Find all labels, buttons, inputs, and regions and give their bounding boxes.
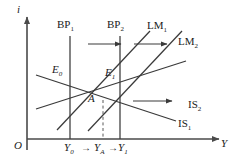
isl-lm-bp-figure: i Y O BP1 BP2 LM1 LM2 IS2 IS1 E0 E1 A Y0… — [0, 0, 235, 163]
bp1-label: BP1 — [57, 19, 74, 33]
bp2-label: BP2 — [107, 19, 124, 33]
x-tick-ya-sub: A — [100, 148, 104, 156]
lm2-curve — [88, 31, 182, 131]
x-tick-y1: Y1 — [118, 142, 128, 156]
lm2-label: LM2 — [178, 36, 198, 50]
tick-arrow-1: → — [81, 143, 91, 153]
x-tick-y1-sub: 1 — [124, 148, 128, 156]
is2-label-base: IS — [188, 98, 198, 110]
x-tick-ya: YA — [94, 142, 104, 156]
is1-label-sub: 1 — [188, 124, 192, 132]
point-e0-label-sub: 0 — [59, 70, 63, 78]
lm1-label-sub: 1 — [164, 26, 168, 34]
x-tick-y0-sub: 0 — [70, 148, 74, 156]
is1-label-base: IS — [178, 117, 188, 129]
point-e0-label: E0 — [52, 64, 62, 78]
y-axis-label: i — [17, 4, 20, 15]
lm1-label: LM1 — [147, 20, 167, 34]
x-tick-y0: Y0 — [64, 142, 74, 156]
is2-label: IS2 — [188, 99, 201, 113]
bp2-label-sub: 2 — [120, 25, 124, 33]
is1-label: IS1 — [178, 118, 191, 132]
x-axis-label: Y — [221, 138, 227, 149]
is1-curve — [36, 75, 176, 121]
point-a-label-base: A — [88, 92, 95, 104]
is2-label-sub: 2 — [198, 105, 202, 113]
bp2-label-base: BP — [107, 18, 120, 30]
point-e1-label-base: E — [105, 66, 112, 78]
lm2-label-base: LM — [178, 35, 195, 47]
bp1-label-base: BP — [57, 18, 70, 30]
origin-label: O — [14, 140, 22, 151]
lm1-label-base: LM — [147, 19, 164, 31]
tick-arrow-2: → — [108, 143, 118, 153]
point-e1-label: E1 — [105, 67, 115, 81]
point-e0-label-base: E — [52, 63, 59, 75]
bp1-label-sub: 1 — [70, 25, 74, 33]
point-e1-label-sub: 1 — [112, 73, 116, 81]
lm2-label-sub: 2 — [195, 42, 199, 50]
point-a-label: A — [88, 93, 95, 107]
